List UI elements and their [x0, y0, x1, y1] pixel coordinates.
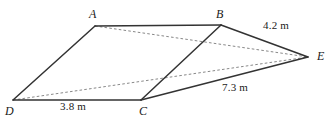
vertex-label-D: D: [5, 105, 14, 117]
vertex-label-C: C: [139, 105, 147, 117]
edge-C-B-line: [141, 25, 221, 100]
vertex-label-A: A: [89, 8, 96, 20]
diagonal-D-E-dashed: [13, 57, 308, 100]
edge-A-B-line: [95, 25, 221, 26]
length-label-BE: 4.2 m: [263, 20, 289, 31]
vertex-label-E: E: [317, 50, 324, 62]
length-label-CE: 7.3 m: [222, 82, 248, 93]
vertex-label-B: B: [216, 8, 223, 20]
length-label-DC: 3.8 m: [60, 101, 86, 112]
edge-D-A-line: [13, 26, 95, 100]
geometry-figure: A B C D E 4.2 m 7.3 m 3.8 m: [0, 0, 332, 121]
edge-C-E-line: [141, 57, 308, 100]
